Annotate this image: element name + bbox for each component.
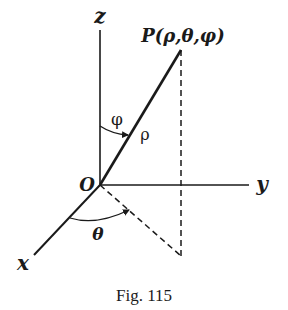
- y-axis-label: y: [255, 172, 269, 196]
- spherical-coordinates-diagram: z y x O P(ρ,θ,φ) φ ρ θ Fig. 115: [0, 0, 288, 310]
- figure-caption: Fig. 115: [116, 286, 172, 305]
- theta-arc-arrow: [70, 210, 129, 221]
- z-axis-label: z: [93, 4, 106, 28]
- origin-label: O: [79, 174, 95, 195]
- point-p-label: P(ρ,θ,φ): [140, 25, 224, 46]
- xy-plane-dashed-projection: [100, 185, 181, 256]
- rho-label: ρ: [140, 125, 149, 144]
- phi-label: φ: [111, 109, 123, 129]
- x-axis-label: x: [16, 251, 30, 275]
- theta-label: θ: [92, 224, 104, 244]
